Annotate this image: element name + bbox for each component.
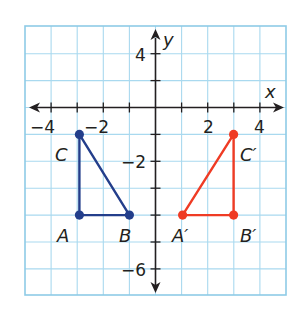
point-c xyxy=(75,130,84,139)
y-tick-label-neg2: −2 xyxy=(121,152,146,172)
point-b xyxy=(125,211,134,220)
point-c-prime xyxy=(229,130,238,139)
x-axis-label: x xyxy=(264,81,276,102)
triangle-abc xyxy=(75,130,134,220)
y-axis-label: y xyxy=(162,29,174,50)
label-b-prime: B′ xyxy=(240,225,256,246)
triangle-abc-shape xyxy=(79,134,129,215)
label-b: B xyxy=(119,225,131,246)
label-a: A xyxy=(56,225,69,246)
x-tick-label-2: 2 xyxy=(203,117,214,137)
y-tick-label-4: 4 xyxy=(135,45,146,65)
y-tick-label-neg6: −6 xyxy=(121,260,146,280)
point-a-prime xyxy=(178,211,187,220)
label-c-prime: C′ xyxy=(240,144,257,165)
x-tick-label-neg4: −4 xyxy=(30,117,55,137)
coordinate-plane: x y −4 −2 2 4 4 −2 −6 C A B C′ A′ B′ xyxy=(0,0,300,316)
x-tick-label-neg2: −2 xyxy=(84,117,109,137)
label-c: C xyxy=(55,144,68,165)
point-b-prime xyxy=(229,211,238,220)
x-tick-label-4: 4 xyxy=(254,117,265,137)
point-a xyxy=(75,211,84,220)
label-a-prime: A′ xyxy=(171,225,188,246)
x-axis xyxy=(29,103,284,113)
